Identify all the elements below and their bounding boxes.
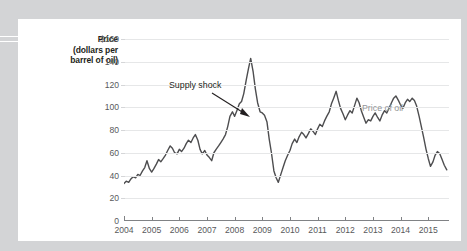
y-tick-mark bbox=[121, 85, 125, 86]
y-tick-label: 80 bbox=[109, 125, 119, 135]
x-tick-mark bbox=[235, 217, 236, 222]
y-tick-mark bbox=[121, 153, 125, 154]
x-tick-mark bbox=[318, 217, 319, 222]
y-tick-label: 20 bbox=[109, 193, 119, 203]
series-line bbox=[124, 58, 447, 183]
y-tick-mark bbox=[121, 107, 125, 108]
x-tick-label: 2013 bbox=[363, 225, 382, 235]
x-tick-mark bbox=[401, 217, 402, 222]
annotation-price-of-oil: Price of oil bbox=[362, 103, 403, 113]
gridline bbox=[124, 198, 449, 199]
x-tick-mark bbox=[290, 217, 291, 222]
x-tick-mark bbox=[345, 217, 346, 222]
y-tick-mark bbox=[121, 198, 125, 199]
y-tick-label: 40 bbox=[109, 171, 119, 181]
y-tick-mark bbox=[121, 130, 125, 131]
y-tick-mark bbox=[121, 39, 125, 40]
x-tick-mark bbox=[179, 217, 180, 222]
x-tick-label: 2006 bbox=[170, 225, 189, 235]
x-tick-label: 2005 bbox=[142, 225, 161, 235]
x-tick-label: 2007 bbox=[197, 225, 216, 235]
oil-price-chart: Price (dollars per barrel of oil) 020406… bbox=[18, 19, 461, 241]
y-tick-label: 100 bbox=[105, 102, 119, 112]
x-tick-label: 2010 bbox=[280, 225, 299, 235]
x-tick-mark bbox=[207, 217, 208, 222]
plot-area: 020406080100120140$160200420052006200720… bbox=[124, 39, 449, 221]
gridline bbox=[124, 153, 449, 154]
y-tick-label: 60 bbox=[109, 148, 119, 158]
x-tick-mark bbox=[373, 217, 374, 222]
x-tick-label: 2014 bbox=[391, 225, 410, 235]
figure-card: Price (dollars per barrel of oil) 020406… bbox=[18, 19, 461, 241]
y-tick-mark bbox=[121, 62, 125, 63]
x-tick-label: 2004 bbox=[114, 225, 133, 235]
y-tick-label: 120 bbox=[105, 80, 119, 90]
x-tick-mark bbox=[428, 217, 429, 222]
page-background: Price (dollars per barrel of oil) 020406… bbox=[0, 0, 467, 251]
gridline bbox=[124, 130, 449, 131]
x-tick-label: 2009 bbox=[253, 225, 272, 235]
annotation-supply-shock: Supply shock bbox=[169, 80, 221, 90]
x-tick-mark bbox=[124, 217, 125, 222]
x-tick-label: 2008 bbox=[225, 225, 244, 235]
gridline bbox=[124, 62, 449, 63]
y-tick-label: 140 bbox=[105, 57, 119, 67]
gridline bbox=[124, 39, 449, 40]
x-tick-label: 2015 bbox=[419, 225, 438, 235]
x-tick-mark bbox=[262, 217, 263, 222]
gridline bbox=[124, 176, 449, 177]
y-axis-title-line-2: (dollars per bbox=[26, 45, 118, 56]
y-tick-mark bbox=[121, 176, 125, 177]
x-tick-label: 2012 bbox=[336, 225, 355, 235]
x-tick-mark bbox=[152, 217, 153, 222]
y-tick-label: $160 bbox=[100, 34, 119, 44]
x-tick-label: 2011 bbox=[308, 225, 326, 235]
